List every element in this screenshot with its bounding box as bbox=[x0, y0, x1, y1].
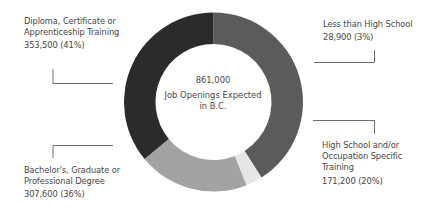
connector-line-less-than-hs bbox=[314, 50, 375, 63]
total-openings-value: 861,000 bbox=[148, 75, 278, 87]
label-bachelors-line1: Bachelor's, Graduate or bbox=[24, 165, 120, 176]
connector-line-bachelors bbox=[53, 146, 113, 159]
center-caption-line1: Job Openings Expected bbox=[148, 90, 278, 102]
label-diploma: Diploma, Certificate or Apprenticeship T… bbox=[24, 16, 119, 52]
donut-segment-high-school bbox=[145, 139, 247, 192]
label-less-than-hs-value: 28,900 (3%) bbox=[323, 32, 413, 43]
label-high-school-line1: High School and/or bbox=[322, 140, 402, 151]
label-less-than-high-school: Less than High School 28,900 (3%) bbox=[323, 19, 413, 43]
label-bachelors: Bachelor's, Graduate or Professional Deg… bbox=[24, 165, 120, 201]
label-diploma-line2: Apprenticeship Training bbox=[24, 27, 119, 38]
label-diploma-line1: Diploma, Certificate or bbox=[24, 16, 119, 27]
center-caption-line2: in B.C. bbox=[148, 101, 278, 113]
connector-line-high-school bbox=[313, 121, 375, 135]
label-less-than-hs-line1: Less than High School bbox=[323, 19, 413, 30]
label-diploma-value: 353,500 (41%) bbox=[24, 40, 119, 51]
label-bachelors-value: 307,600 (36%) bbox=[24, 189, 120, 200]
label-high-school: High School and/or Occupation Specific T… bbox=[322, 140, 402, 187]
connector-line-diploma bbox=[53, 69, 113, 84]
label-high-school-line3: Training bbox=[322, 162, 402, 173]
donut-center-label: 861,000 Job Openings Expected in B.C. bbox=[148, 75, 278, 113]
label-bachelors-line2: Professional Degree bbox=[24, 176, 120, 187]
label-high-school-value: 171,200 (20%) bbox=[322, 176, 402, 187]
label-high-school-line2: Occupation Specific bbox=[322, 151, 402, 162]
